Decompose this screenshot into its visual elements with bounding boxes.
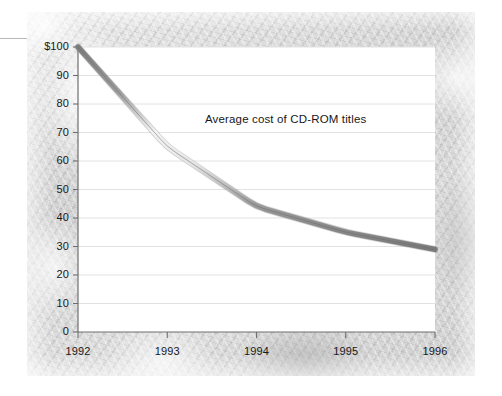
data-series-cd-rom-cost <box>78 47 435 249</box>
x-axis-tick-label: 1993 <box>137 345 197 357</box>
x-axis-ticks <box>78 332 435 338</box>
y-axis-tick-label: 20 <box>25 268 69 280</box>
y-axis-tick-label: 10 <box>25 297 69 309</box>
y-axis-tick-label: 50 <box>25 183 69 195</box>
line-chart <box>0 0 502 396</box>
y-axis-tick-label: 70 <box>25 126 69 138</box>
y-axis-tick-label: 60 <box>25 154 69 166</box>
chart-title: Average cost of CD-ROM titles <box>205 113 366 125</box>
y-axis-ticks <box>73 47 78 332</box>
y-axis-tick-label: $100 <box>25 40 69 52</box>
data-line-shadow <box>78 47 435 249</box>
x-axis-tick-label: 1995 <box>316 345 376 357</box>
y-axis-tick-label: 30 <box>25 240 69 252</box>
y-axis-tick-label: 80 <box>25 97 69 109</box>
y-axis-tick-label: 0 <box>25 325 69 337</box>
data-line-top-edge <box>78 47 435 249</box>
x-axis-tick-label: 1994 <box>227 345 287 357</box>
y-axis-tick-label: 90 <box>25 69 69 81</box>
gridlines <box>78 47 435 304</box>
y-axis-tick-label: 40 <box>25 211 69 223</box>
x-axis-tick-label: 1996 <box>405 345 465 357</box>
data-line <box>78 47 435 249</box>
x-axis-tick-label: 1992 <box>48 345 108 357</box>
